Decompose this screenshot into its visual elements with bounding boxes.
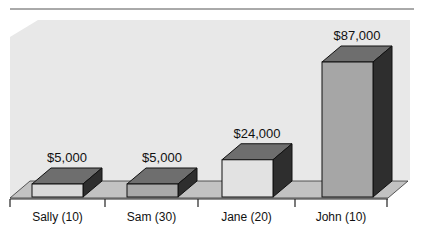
x-category-label: Jane (20)	[221, 210, 272, 224]
bar-front-face	[322, 62, 373, 197]
bar-3: $87,000	[322, 28, 392, 197]
bar-side-face	[373, 46, 392, 197]
bar-value-label: $24,000	[234, 126, 281, 141]
x-category-label: Sam (30)	[127, 210, 176, 224]
bar-front-face	[222, 160, 273, 197]
bar-value-label: $5,000	[142, 150, 182, 165]
bar-front-face	[32, 184, 83, 197]
bar-chart: $5,000$5,000$24,000$87,000 Sally (10)Sam…	[0, 0, 422, 237]
bar-front-face	[127, 184, 178, 197]
bar-value-label: $87,000	[334, 28, 381, 43]
x-category-label: John (10)	[316, 210, 367, 224]
x-axis-ticks	[10, 199, 387, 207]
bar-value-label: $5,000	[47, 150, 87, 165]
x-category-label: Sally (10)	[32, 210, 83, 224]
x-axis-labels: Sally (10)Sam (30)Jane (20)John (10)	[32, 210, 366, 224]
